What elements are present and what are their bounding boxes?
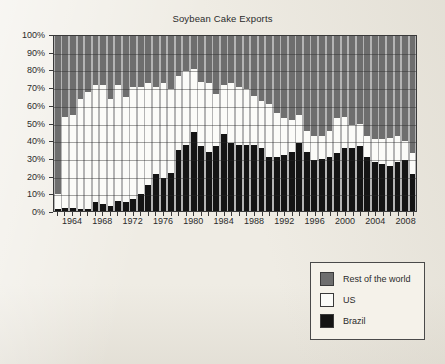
y-axis-tick-label: 90% [27, 48, 45, 58]
legend-item-label: Brazil [343, 316, 366, 326]
x-axis-tick-label: 2008 [396, 216, 416, 226]
bar-segment-us [304, 131, 310, 152]
bar-segment-brazil [334, 153, 340, 211]
bar-column [379, 36, 387, 211]
legend-swatch-us [320, 293, 334, 307]
bar-segment-rest-of-world [319, 36, 325, 136]
bar-segment-rest-of-world [78, 36, 84, 99]
bar-segment-brazil [296, 143, 302, 211]
bar-segment-rest-of-world [176, 36, 182, 76]
y-axis-tick-label: 20% [27, 172, 45, 182]
legend-item-label: US [343, 295, 356, 305]
bar-segment-brazil [281, 155, 287, 211]
bar-segment-us [349, 125, 355, 148]
bar-stack [100, 36, 106, 211]
bar-stack [183, 36, 189, 211]
bar-segment-us [191, 69, 197, 132]
bar-segment-rest-of-world [108, 36, 114, 99]
bar-segment-rest-of-world [244, 36, 250, 89]
bar-segment-us [274, 113, 280, 157]
bar-stack [289, 36, 295, 211]
bar-segment-rest-of-world [357, 36, 363, 124]
bar-segment-us [387, 138, 393, 166]
bar-segment-brazil [198, 146, 204, 211]
bar-segment-us [62, 117, 68, 208]
bar-segment-us [402, 141, 408, 160]
bar-segment-us [176, 76, 182, 150]
bar-segment-brazil [266, 157, 272, 211]
bar-segment-rest-of-world [70, 36, 76, 115]
bar-segment-us [342, 117, 348, 149]
bar-segment-brazil [123, 202, 129, 211]
bar-segment-rest-of-world [327, 36, 333, 131]
bar-segment-rest-of-world [289, 36, 295, 120]
bar-segment-brazil [93, 202, 99, 211]
bar-segment-rest-of-world [198, 36, 204, 82]
bar-stack [145, 36, 151, 211]
y-axis-tick-label: 50% [27, 119, 45, 129]
bar-segment-rest-of-world [342, 36, 348, 117]
chart-legend: Rest of the worldUSBrazil [310, 262, 425, 340]
bar-segment-brazil [327, 157, 333, 211]
bar-segment-brazil [402, 160, 408, 211]
plot-area [53, 35, 417, 212]
bar-segment-brazil [289, 152, 295, 212]
bar-stack [228, 36, 234, 211]
bar-stack [342, 36, 348, 211]
bar-segment-rest-of-world [364, 36, 370, 136]
bar-segment-brazil [206, 152, 212, 212]
bar-segment-brazil [364, 157, 370, 211]
bar-segment-brazil [183, 145, 189, 212]
bar-stack [206, 36, 212, 211]
bar-segment-us [130, 87, 136, 199]
bar-segment-rest-of-world [93, 36, 99, 85]
legend-item: Brazil [320, 313, 424, 328]
bar-segment-us [236, 87, 242, 145]
y-axis-tick-label: 40% [27, 136, 45, 146]
bar-column [348, 36, 356, 211]
bar-segment-brazil [115, 201, 121, 211]
bar-segment-rest-of-world [311, 36, 317, 136]
bar-column [394, 36, 402, 211]
bar-segment-us [259, 101, 265, 148]
bar-segment-us [244, 89, 250, 145]
bar-column [280, 36, 288, 211]
bar-column [356, 36, 364, 211]
y-axis-tick-label: 70% [27, 83, 45, 93]
bar-segment-us [364, 136, 370, 157]
bar-segment-us [213, 94, 219, 147]
x-axis-tick-label: 1964 [62, 216, 82, 226]
bar-stack [349, 36, 355, 211]
bar-segment-brazil [85, 209, 91, 211]
bar-segment-brazil [311, 160, 317, 211]
bar-stack [93, 36, 99, 211]
bar-column [152, 36, 160, 211]
bar-segment-rest-of-world [266, 36, 272, 104]
bar-segment-brazil [304, 152, 310, 212]
bar-segment-rest-of-world [296, 36, 302, 115]
bar-segment-us [183, 71, 189, 145]
bar-segment-rest-of-world [145, 36, 151, 83]
bar-column [401, 36, 409, 211]
bar-segment-us [70, 115, 76, 208]
bar-stack [123, 36, 129, 211]
legend-item-label: Rest of the world [343, 274, 411, 284]
bar-column [205, 36, 213, 211]
bar-column [197, 36, 205, 211]
bar-column [371, 36, 379, 211]
bar-column [228, 36, 236, 211]
bar-stack [78, 36, 84, 211]
bar-column [122, 36, 130, 211]
bar-column [160, 36, 168, 211]
bar-segment-us [153, 87, 159, 175]
bar-column [190, 36, 198, 211]
bar-segment-us [289, 120, 295, 152]
bar-segment-us [138, 87, 144, 194]
bar-segment-rest-of-world [213, 36, 219, 94]
bar-stack [55, 36, 61, 211]
bar-column [243, 36, 251, 211]
bar-stack [410, 36, 416, 211]
y-axis-tick-label: 60% [27, 101, 45, 111]
bar-segment-rest-of-world [259, 36, 265, 101]
bar-stack [259, 36, 265, 211]
